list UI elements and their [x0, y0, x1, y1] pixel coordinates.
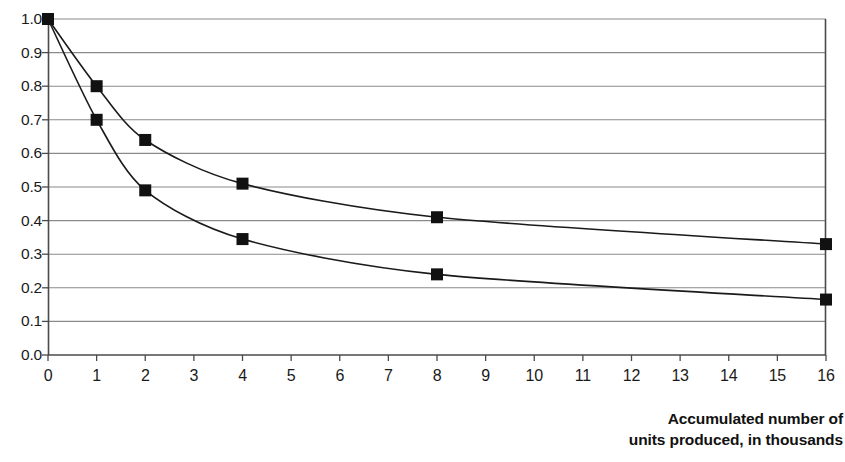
- x-tick-label: 4: [223, 368, 263, 384]
- data-point-marker: [820, 238, 832, 250]
- x-tick-label: 5: [271, 368, 311, 384]
- y-tick-label: 0.0: [0, 347, 42, 363]
- x-tick-label: 9: [466, 368, 506, 384]
- y-axis-ticks: [42, 19, 48, 355]
- x-tick-label: 14: [709, 368, 749, 384]
- data-point-marker: [237, 233, 249, 245]
- data-point-marker: [91, 114, 103, 126]
- x-tick-label: 10: [514, 368, 554, 384]
- data-point-marker: [139, 184, 151, 196]
- x-tick-label: 0: [28, 368, 68, 384]
- data-series-group: [48, 19, 826, 300]
- data-point-marker: [91, 80, 103, 92]
- x-tick-label: 8: [417, 368, 457, 384]
- x-tick-label: 3: [174, 368, 214, 384]
- x-axis-ticks: [48, 355, 826, 361]
- y-tick-label: 0.1: [0, 313, 42, 329]
- x-tick-label: 15: [757, 368, 797, 384]
- x-tick-label: 6: [320, 368, 360, 384]
- y-tick-label: 0.9: [0, 45, 42, 61]
- y-tick-label: 1.0: [0, 11, 42, 27]
- x-tick-label: 2: [125, 368, 165, 384]
- y-tick-label: 0.2: [0, 280, 42, 296]
- y-tick-label: 0.6: [0, 145, 42, 161]
- data-point-marker: [139, 134, 151, 146]
- data-point-marker: [431, 211, 443, 223]
- chart-plot-area: [0, 0, 845, 462]
- data-point-marker: [431, 268, 443, 280]
- x-tick-label: 12: [612, 368, 652, 384]
- x-axis-title-line-1: Accumulated number of: [629, 408, 843, 429]
- y-tick-label: 0.7: [0, 112, 42, 128]
- series-line-2: [48, 19, 826, 300]
- data-point-marker: [820, 294, 832, 306]
- y-tick-label: 0.4: [0, 213, 42, 229]
- data-point-marker: [42, 13, 54, 25]
- learning-curve-chart: 1.00.90.80.70.60.50.40.30.20.10.0 012345…: [0, 0, 845, 462]
- x-tick-label: 11: [563, 368, 603, 384]
- data-markers-group: [42, 13, 832, 306]
- y-tick-label: 0.8: [0, 78, 42, 94]
- data-point-marker: [237, 178, 249, 190]
- x-tick-label: 13: [660, 368, 700, 384]
- x-tick-label: 16: [806, 368, 845, 384]
- y-tick-label: 0.5: [0, 179, 42, 195]
- x-axis-title-line-2: units produced, in thousands: [629, 429, 843, 450]
- x-tick-label: 1: [77, 368, 117, 384]
- x-axis-title: Accumulated number of units produced, in…: [629, 408, 843, 450]
- y-tick-label: 0.3: [0, 246, 42, 262]
- x-tick-label: 7: [368, 368, 408, 384]
